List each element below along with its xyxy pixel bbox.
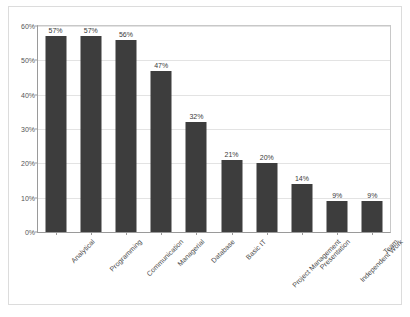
bar[interactable]	[115, 40, 136, 232]
chart-frame: 0%10%20%30%40%50%60% 57%57%56%47%32%21%2…	[8, 6, 402, 305]
bar-value-label: 20%	[260, 154, 274, 161]
bars-layer: 57%57%56%47%32%21%20%14%9%9%	[38, 26, 390, 232]
bar[interactable]	[362, 201, 383, 232]
bar[interactable]	[221, 160, 242, 232]
bar-value-label: 32%	[189, 113, 203, 120]
bar-slot: 9%	[355, 26, 390, 232]
x-axis-category-label: Project Management	[291, 238, 342, 289]
bar-slot: 9%	[320, 26, 355, 232]
bar[interactable]	[151, 71, 172, 232]
y-axis-tick-label: 60%	[21, 23, 35, 30]
bar-slot: 47%	[144, 26, 179, 232]
y-axis-tick-label: 0%	[25, 229, 35, 236]
bar-slot: 14%	[284, 26, 319, 232]
y-axis-tick-label: 50%	[21, 57, 35, 64]
bar-value-label: 14%	[295, 175, 309, 182]
y-axis-tick-label: 40%	[21, 91, 35, 98]
x-axis-category-label: Database	[210, 238, 236, 264]
bar-value-label: 9%	[367, 192, 377, 199]
bar[interactable]	[45, 36, 66, 232]
bar[interactable]	[327, 201, 348, 232]
bar-value-label: 47%	[154, 62, 168, 69]
bar-slot: 57%	[38, 26, 73, 232]
y-axis-tick-label: 20%	[21, 160, 35, 167]
bar-value-label: 57%	[84, 27, 98, 34]
bar[interactable]	[186, 122, 207, 232]
bar-slot: 32%	[179, 26, 214, 232]
y-axis-tick-label: 10%	[21, 194, 35, 201]
bar-value-label: 9%	[332, 192, 342, 199]
x-axis-labels: AnalyticalProgrammingCommunicationManage…	[37, 233, 391, 305]
bar-value-label: 56%	[119, 31, 133, 38]
bar-slot: 20%	[249, 26, 284, 232]
plot-area: 0%10%20%30%40%50%60% 57%57%56%47%32%21%2…	[37, 25, 391, 233]
bar-value-label: 57%	[49, 27, 63, 34]
x-axis-category-label: Programming	[108, 238, 143, 273]
x-axis-category-label: Basic IT	[244, 238, 267, 261]
x-axis-category-label: Analytical	[69, 238, 95, 264]
bar-slot: 21%	[214, 26, 249, 232]
bar[interactable]	[291, 184, 312, 232]
bar[interactable]	[80, 36, 101, 232]
y-axis-tick-label: 30%	[21, 126, 35, 133]
bar-value-label: 21%	[225, 151, 239, 158]
bar-slot: 57%	[73, 26, 108, 232]
bar-slot: 56%	[108, 26, 143, 232]
bar[interactable]	[256, 163, 277, 232]
x-axis-category-label: Independent Work	[359, 238, 404, 283]
x-axis-category-label: Communication	[145, 238, 184, 277]
